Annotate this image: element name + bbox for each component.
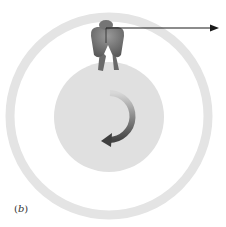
panel-label: (b): [14, 203, 28, 214]
rotating-platform-diagram: [0, 0, 226, 227]
inner-disk: [54, 62, 164, 172]
